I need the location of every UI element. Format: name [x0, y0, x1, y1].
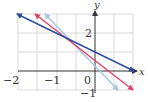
tick-x-0: 0	[84, 74, 91, 87]
tick-x-neg1: −1	[44, 74, 60, 87]
tick-labels: −2 −1 0 2 −1 x y	[3, 0, 145, 100]
tick-y-2: 2	[85, 27, 92, 40]
line-chart: −2 −1 0 2 −1 x y	[0, 0, 148, 102]
grid	[18, 14, 133, 90]
y-axis-label: y	[93, 0, 100, 10]
tick-y-neg1: −1	[80, 87, 96, 100]
x-axis-label: x	[139, 66, 145, 77]
tick-x-neg2: −2	[3, 74, 19, 87]
